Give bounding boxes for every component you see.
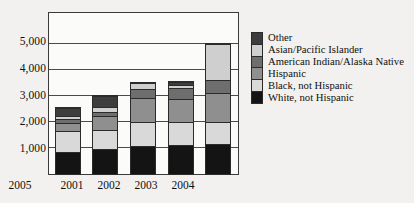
bar-2004[interactable]	[169, 82, 193, 174]
legend-swatch-column	[251, 32, 263, 104]
bar-segment[interactable]	[56, 152, 80, 174]
x-axis-tick-label: 2004	[163, 179, 203, 191]
legend-item-label: Other	[268, 31, 404, 43]
plot-area	[48, 12, 239, 175]
legend-swatch	[252, 33, 262, 44]
bar-segment[interactable]	[169, 145, 193, 174]
x-axis-tick-label: 2005	[0, 179, 40, 191]
legend-item-label: Black, not Hispanic	[268, 79, 404, 91]
legend-swatch	[252, 56, 262, 68]
bar-segment[interactable]	[131, 98, 155, 122]
legend-swatch	[252, 44, 262, 56]
bar-segment[interactable]	[93, 130, 117, 149]
bar-2005[interactable]	[206, 44, 230, 174]
stacked-bar-chart: 5,000 4,000 3,000 2,000 1,000 2001 2002 …	[0, 0, 414, 203]
legend-swatch	[252, 67, 262, 79]
bar-segment[interactable]	[93, 116, 117, 131]
bar-segment[interactable]	[206, 144, 230, 174]
y-axis-tick-label: 2,000	[2, 116, 46, 128]
bar-segment[interactable]	[206, 122, 230, 144]
legend-swatch	[252, 91, 262, 103]
legend-item-label: White, not Hispanic	[268, 91, 404, 103]
bar-segment[interactable]	[206, 44, 230, 80]
bar-segment[interactable]	[56, 108, 80, 117]
bar-segment[interactable]	[169, 122, 193, 145]
bar-segment[interactable]	[56, 131, 80, 152]
legend-swatch	[252, 79, 262, 91]
bar-segment[interactable]	[169, 99, 193, 122]
bar-segment[interactable]	[93, 149, 117, 174]
legend-item-label: Asian/Pacific Islander	[268, 43, 404, 55]
x-axis-tick-label: 2003	[126, 179, 166, 191]
x-axis-tick-label: 2001	[52, 179, 92, 191]
y-axis-tick-label: 3,000	[2, 90, 46, 102]
bar-2003[interactable]	[131, 83, 155, 174]
bar-segment[interactable]	[131, 122, 155, 146]
bar-segment[interactable]	[169, 88, 193, 99]
bar-segment[interactable]	[131, 146, 155, 174]
bar-2001[interactable]	[56, 108, 80, 174]
legend-item-label: Hispanic	[268, 67, 404, 79]
bar-segment[interactable]	[206, 80, 230, 94]
bar-segment[interactable]	[131, 89, 155, 98]
y-axis-tick-label: 1,000	[2, 143, 46, 155]
y-axis-tick-label: 4,000	[2, 63, 46, 75]
x-axis-tick-label: 2002	[89, 179, 129, 191]
legend-label-column: OtherAsian/Pacific IslanderAmerican Indi…	[268, 31, 404, 103]
bar-segment[interactable]	[56, 123, 80, 132]
y-axis: 5,000 4,000 3,000 2,000 1,000	[0, 0, 46, 203]
legend-item-label: American Indian/Alaska Native	[268, 55, 404, 67]
y-axis-tick-label: 5,000	[2, 36, 46, 48]
bar-segment[interactable]	[93, 96, 117, 107]
bar-2002[interactable]	[93, 96, 117, 174]
bar-segment[interactable]	[206, 93, 230, 122]
